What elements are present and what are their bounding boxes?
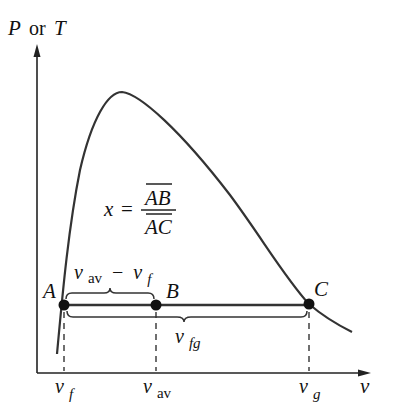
y-label-or: or: [29, 17, 46, 39]
point-b-marker: [151, 300, 162, 311]
tick-vav-v: v: [143, 375, 152, 397]
tick-vg-v: v: [299, 375, 308, 397]
point-a-marker: [59, 300, 70, 311]
y-label-p: P: [7, 16, 21, 40]
saturation-curve: [57, 92, 352, 354]
point-b-label: B: [166, 279, 179, 303]
x-label-v: v: [360, 374, 370, 398]
tick-vg-sub: g: [313, 386, 321, 402]
upper-label-minus: −: [112, 261, 123, 283]
formula-numerator: AB: [143, 186, 171, 210]
lower-label-v: v: [175, 325, 184, 347]
lower-brace: [67, 311, 307, 322]
formula-lhs: x: [103, 197, 114, 221]
formula-equals: =: [121, 197, 133, 221]
svg-text:v f: v f: [55, 375, 75, 402]
point-a-label: A: [41, 279, 56, 303]
tick-vf-sub: f: [69, 386, 75, 402]
svg-text:v av: v av: [143, 375, 172, 401]
upper-label-v2: v: [133, 261, 142, 283]
svg-text:P or T: P or T: [7, 16, 67, 40]
upper-label-sub-f: f: [147, 271, 153, 287]
svg-text:v av − v f: v av − v f: [74, 261, 153, 287]
svg-text:v g: v g: [299, 375, 321, 402]
formula-denominator: AC: [143, 215, 173, 239]
point-c-marker: [304, 299, 315, 310]
saturation-dome-diagram: P or T v x = AB AC A B C v av − v f v fg…: [0, 0, 397, 409]
tick-vf-v: v: [55, 375, 64, 397]
point-c-label: C: [314, 277, 329, 301]
upper-label-sub-av: av: [88, 270, 103, 286]
svg-text:v fg: v fg: [175, 325, 201, 351]
upper-brace: [66, 288, 154, 299]
y-axis-arrow-icon: [34, 44, 41, 57]
tick-vav-sub: av: [157, 385, 172, 401]
y-label-t: T: [54, 16, 67, 40]
lower-label-sub-fg: fg: [189, 335, 201, 351]
upper-label-v1: v: [74, 261, 83, 283]
